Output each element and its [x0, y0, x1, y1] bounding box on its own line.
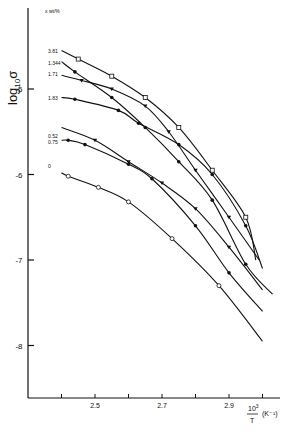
data-point: [210, 198, 214, 202]
y-tick-label: -8: [15, 342, 23, 351]
x-tick-label: 2.9: [224, 402, 234, 409]
data-point: [143, 96, 147, 100]
data-point: [137, 121, 141, 125]
data-point: [73, 70, 77, 74]
data-point: [244, 215, 248, 219]
data-point: [210, 173, 214, 177]
data-point: [217, 284, 221, 288]
data-point: [73, 97, 77, 101]
svg-text:T: T: [250, 417, 255, 424]
data-point: [244, 262, 248, 266]
x-axis-label: 103 T (K⁻¹): [247, 403, 278, 424]
x-tick-label: 2.7: [157, 402, 167, 409]
data-point: [96, 185, 100, 189]
data-point: [210, 168, 214, 172]
legend-header: x wt/%: [45, 8, 60, 14]
series-label: 0.75: [48, 139, 58, 145]
series-layer: [62, 51, 273, 342]
data-point: [76, 57, 80, 61]
data-point: [177, 160, 181, 164]
svg-text:103: 103: [248, 403, 259, 412]
data-point: [127, 162, 131, 166]
data-point: [150, 177, 154, 181]
data-point: [66, 139, 70, 143]
data-point: [177, 143, 181, 147]
svg-text:(K⁻¹): (K⁻¹): [262, 410, 278, 418]
conductivity-chart: -5-6-7-82.52.72.9 3.811.3441.711.830.520…: [0, 0, 287, 437]
series-label: 0: [48, 163, 51, 169]
data-point: [110, 96, 114, 100]
series-line-0.75: [62, 140, 263, 311]
data-point: [244, 224, 248, 228]
series-line-0.52: [62, 127, 263, 289]
data-point: [117, 109, 121, 113]
series-labels: 3.811.3441.711.830.520.750: [48, 48, 61, 169]
series-line-1.344: [62, 62, 273, 295]
series-label: 1.83: [48, 95, 58, 101]
series-label: 1.344: [48, 60, 61, 66]
y-tick-label: -7: [15, 256, 23, 265]
series-label: 1.71: [48, 71, 58, 77]
x-tick-label: 2.5: [90, 402, 100, 409]
y-axis-label: log10σ: [5, 71, 22, 105]
series-label: 3.81: [48, 48, 58, 54]
series-line-0: [62, 173, 263, 341]
data-point: [127, 200, 131, 204]
data-point: [83, 143, 87, 147]
y-tick-label: -6: [15, 171, 23, 180]
data-point: [66, 174, 70, 178]
data-point: [227, 271, 231, 275]
data-point: [110, 74, 114, 78]
data-point: [194, 224, 198, 228]
data-point: [170, 237, 174, 241]
data-point: [177, 125, 181, 129]
